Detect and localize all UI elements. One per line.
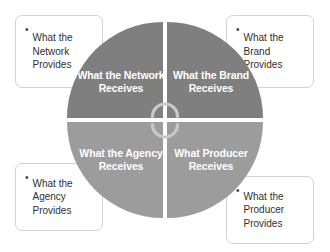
quadrant-label: What Producer Receives	[167, 147, 259, 173]
quadrant-label: What the Network Receives	[73, 69, 163, 95]
quadrant-agency-receives[interactable]: What the Agency Receives	[67, 122, 163, 218]
quadrant-label: What the Brand Receives	[167, 69, 259, 95]
quadrant-producer-receives[interactable]: What Producer Receives	[167, 122, 263, 218]
bullet-icon: •	[25, 25, 29, 35]
bullet-icon: •	[25, 173, 29, 183]
quadrant-network-receives[interactable]: What the Network Receives	[67, 22, 163, 118]
quadrant-label: What the Agency Receives	[73, 147, 163, 173]
quadrant-brand-receives[interactable]: What the Brand Receives	[167, 22, 263, 118]
diagram-canvas: • What the Network Provides • What the B…	[0, 0, 330, 252]
quadrant-wheel: What the Network Receives What the Brand…	[67, 22, 263, 218]
